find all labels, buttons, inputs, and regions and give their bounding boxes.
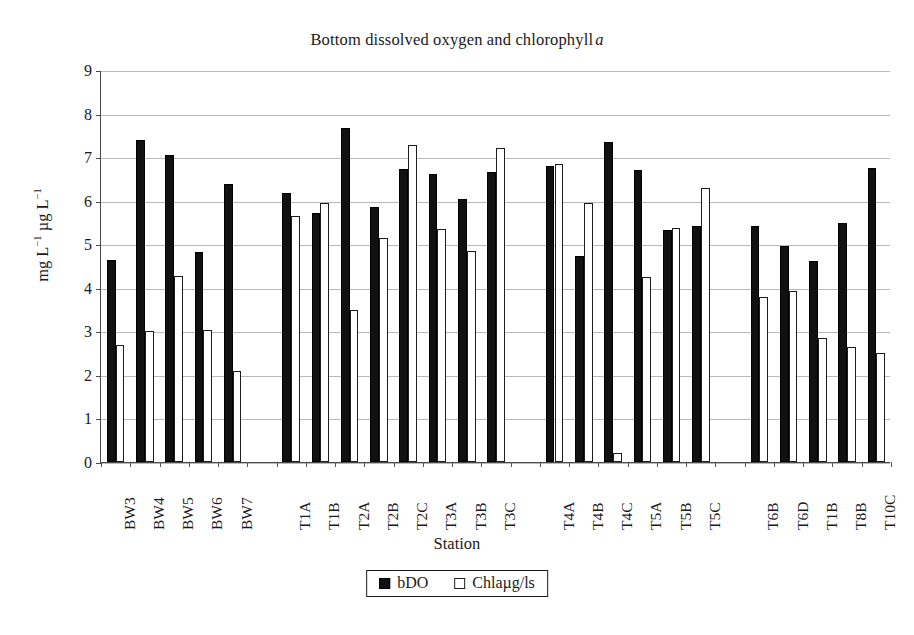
x-tick-mark — [657, 462, 658, 467]
bar-chla — [847, 347, 856, 462]
bar-group — [569, 71, 598, 462]
bar-chla — [350, 310, 359, 462]
x-tick-mark — [247, 462, 248, 467]
x-tick-label: BW7 — [238, 468, 256, 530]
chart-title-text: Bottom dissolved oxygen and chlorophyll — [310, 30, 593, 49]
x-tick-mark — [511, 462, 512, 467]
bar-bdo — [224, 184, 233, 462]
bar-chla — [320, 203, 329, 462]
bar-group — [189, 71, 218, 462]
bar-bdo — [107, 260, 116, 462]
x-tick-label: BW3 — [121, 468, 139, 530]
x-tick-mark — [394, 462, 395, 467]
x-tick-label: T1A — [296, 468, 314, 530]
bar-chla — [759, 297, 768, 462]
bar-bdo — [634, 170, 643, 462]
x-tick-mark — [277, 462, 278, 467]
bar-bdo — [809, 261, 818, 462]
bar-bdo — [458, 199, 467, 463]
x-tick-label: T4A — [560, 468, 578, 530]
y-tick-label: 5 — [84, 236, 92, 254]
bar-chla — [672, 228, 681, 462]
bar-chla — [467, 251, 476, 462]
bar-bdo — [663, 230, 672, 462]
bar-group — [101, 71, 130, 462]
bar-chla — [437, 229, 446, 462]
x-tick-mark — [130, 462, 131, 467]
y-tick-label: 3 — [84, 323, 92, 341]
bar-group — [832, 71, 861, 462]
x-tick-label: T5C — [706, 468, 724, 530]
x-tick-mark — [481, 462, 482, 467]
y-tick-label: 1 — [84, 410, 92, 428]
x-tick-label: T4B — [589, 468, 607, 530]
bar-bdo — [312, 213, 321, 462]
x-tick-label: T2C — [413, 468, 431, 530]
x-tick-mark — [423, 462, 424, 467]
bar-chla — [642, 277, 651, 462]
bar-chla — [233, 371, 242, 462]
bar-bdo — [546, 166, 555, 462]
bar-group — [598, 71, 627, 462]
bar-chla — [116, 345, 125, 462]
chart-legend: bDO Chlaµg/ls — [366, 570, 548, 597]
x-tick-label: T5A — [647, 468, 665, 530]
x-tick-mark — [862, 462, 863, 467]
bar-chla — [584, 203, 593, 462]
bar-group — [862, 71, 891, 462]
bar-group — [540, 71, 569, 462]
bar-chla — [174, 276, 183, 462]
x-tick-mark — [335, 462, 336, 467]
x-tick-label: T1B — [325, 468, 343, 530]
bar-group — [481, 71, 510, 462]
chart-figure: Bottom dissolved oxygen and chlorophylla… — [0, 0, 914, 635]
x-axis-title: Station — [0, 534, 914, 554]
bar-chla — [613, 453, 622, 462]
bar-chla — [379, 238, 388, 462]
x-tick-label: T2B — [384, 468, 402, 530]
y-axis-exp-1: −1 — [33, 235, 44, 246]
bar-group — [452, 71, 481, 462]
bar-group — [277, 71, 306, 462]
bar-group — [364, 71, 393, 462]
x-tick-labels: BW3BW4BW5BW6BW7T1AT1BT2AT2BT2CT3AT3BT3CT… — [100, 468, 890, 530]
bar-bdo — [195, 252, 204, 462]
chart-title-italic-a: a — [593, 30, 603, 49]
hollow-square-icon — [454, 578, 465, 589]
chart-title: Bottom dissolved oxygen and chlorophylla — [0, 30, 914, 50]
bar-group — [745, 71, 774, 462]
x-tick-label: BW6 — [208, 468, 226, 530]
x-tick-label: T3C — [501, 468, 519, 530]
x-tick-label: T1B — [823, 468, 841, 530]
x-tick-mark — [715, 462, 716, 467]
bar-bdo — [136, 140, 145, 462]
bar-group — [130, 71, 159, 462]
filled-square-icon — [379, 578, 390, 589]
x-tick-mark — [364, 462, 365, 467]
bar-chla — [555, 164, 564, 462]
bar-group — [218, 71, 247, 462]
bar-bdo — [692, 226, 701, 463]
x-tick-mark — [891, 462, 892, 467]
plot-area: 0123456789 — [100, 71, 890, 463]
legend-label-chla: Chlaµg/ls — [472, 574, 535, 592]
x-tick-mark — [101, 462, 102, 467]
x-tick-mark — [745, 462, 746, 467]
x-tick-label: T10C — [881, 468, 899, 530]
bar-group — [160, 71, 189, 462]
bar-group — [774, 71, 803, 462]
x-tick-mark — [540, 462, 541, 467]
y-tick-label: 8 — [84, 106, 92, 124]
bar-bdo — [370, 207, 379, 462]
x-tick-label: T8B — [852, 468, 870, 530]
bar-bdo — [429, 174, 438, 462]
bar-chla — [203, 330, 212, 462]
x-tick-mark — [218, 462, 219, 467]
bar-group — [686, 71, 715, 462]
y-axis-exp-2: −1 — [33, 188, 44, 199]
bar-group — [335, 71, 364, 462]
x-tick-mark — [452, 462, 453, 467]
bar-bdo — [780, 246, 789, 462]
bar-chla — [789, 291, 798, 462]
x-tick-label: BW4 — [150, 468, 168, 530]
